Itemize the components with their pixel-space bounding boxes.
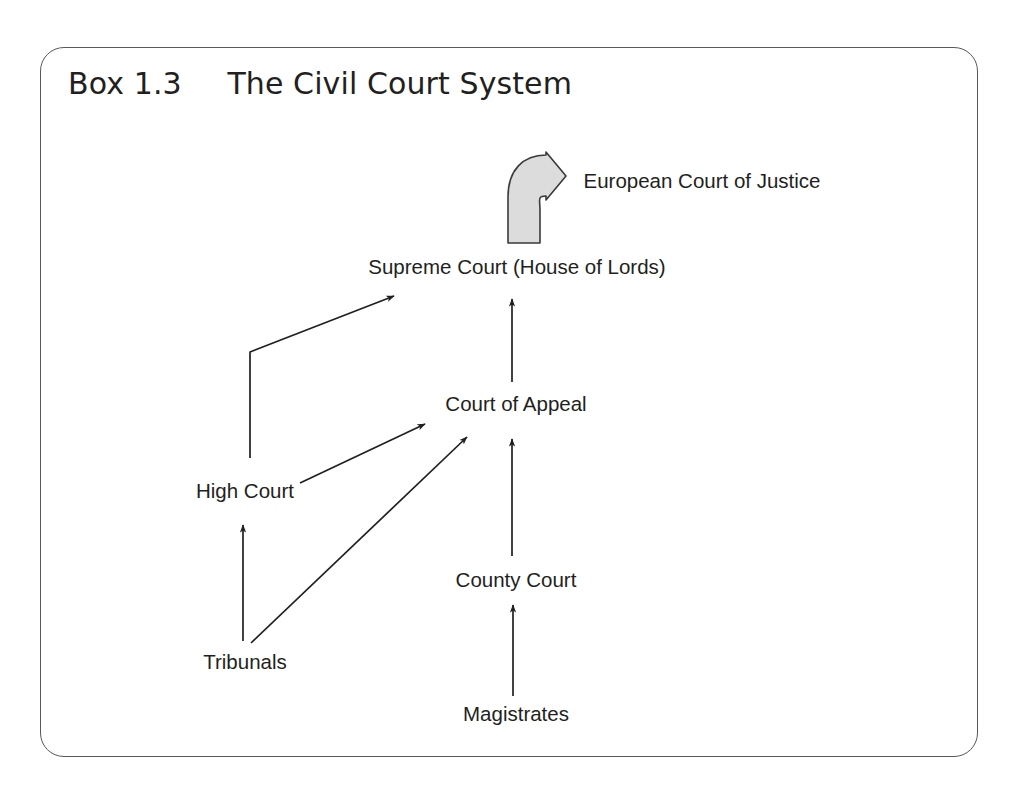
court-hierarchy-diagram: European Court of Justice Supreme Court … bbox=[0, 0, 1018, 798]
edge-high-court-to-supreme-court bbox=[250, 296, 394, 458]
page-root: Box 1.3 The Civil Court System European … bbox=[0, 0, 1018, 798]
edge-supreme-to-ecj bbox=[508, 152, 566, 243]
edge-high-court-to-court-of-appeal bbox=[300, 424, 425, 483]
node-label-high-court: High Court bbox=[196, 479, 294, 502]
node-label-court-of-appeal: Court of Appeal bbox=[445, 392, 586, 415]
node-label-magistrates: Magistrates bbox=[463, 702, 569, 725]
edge-tribunals-to-court-of-appeal bbox=[251, 437, 467, 643]
node-label-european-court-of-justice: European Court of Justice bbox=[583, 169, 820, 192]
node-label-county-court: County Court bbox=[456, 568, 577, 591]
node-label-supreme-court: Supreme Court (House of Lords) bbox=[368, 255, 665, 278]
node-label-tribunals: Tribunals bbox=[203, 650, 287, 673]
ecj-block-arrow-icon bbox=[508, 152, 566, 243]
